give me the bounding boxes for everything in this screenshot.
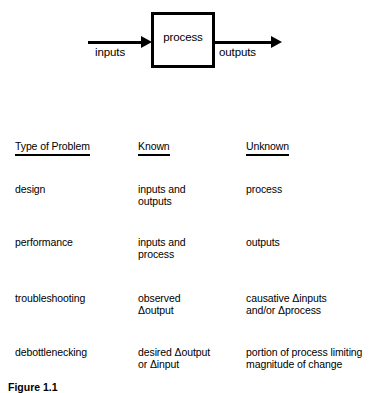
table-row: process [246,184,373,196]
table-row: inputs and outputs [138,184,243,207]
table-row: causative Δinputs and/or Δprocess [246,293,373,316]
table-row: desired Δoutput or Δinput [138,347,243,370]
table-row: outputs [246,237,373,249]
table-header-cell-known: Known [138,128,243,156]
table-header-cell-type: Type of Problem [15,128,135,156]
header-label-unknown: Unknown [246,140,289,156]
table-row: debottlenecking [15,347,135,359]
table-row: portion of process limiting magnitude of… [246,347,373,370]
figure-caption: Figure 1.1 [8,381,58,393]
table-row: design [15,184,135,196]
header-label-known: Known [138,140,170,156]
table-row: observed Δoutput [138,293,243,316]
header-label-type: Type of Problem [15,140,90,156]
table-row: performance [15,237,135,249]
table-header-cell-unknown: Unknown [246,128,373,156]
table-row: inputs and process [138,237,243,260]
table-row: troubleshooting [15,293,135,305]
